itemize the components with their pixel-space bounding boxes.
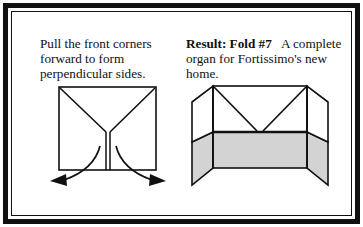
arrow-right-head	[149, 174, 166, 186]
back-lower-panel	[213, 132, 307, 168]
right-panel-caption: Result: Fold #7 A complete organ for For…	[186, 36, 348, 82]
figure-container: Pull the front corners forward to form p…	[0, 0, 363, 227]
back-upper-panel	[213, 86, 307, 132]
flat-sheet-outline	[59, 87, 156, 170]
left-wing-upper-panel	[192, 86, 213, 142]
right-panel-caption-lead: Result: Fold #7	[186, 36, 272, 51]
left-panel-diagram	[40, 80, 180, 200]
arrow-left-head	[50, 174, 67, 186]
right-wing-upper-panel	[307, 86, 328, 142]
left-panel-caption: Pull the front corners forward to form p…	[40, 36, 190, 82]
right-panel-diagram	[186, 80, 336, 200]
